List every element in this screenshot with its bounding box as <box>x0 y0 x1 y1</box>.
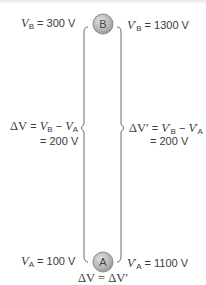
equals: = <box>27 120 40 132</box>
left-bracket <box>81 27 88 262</box>
svg-text:B: B <box>99 18 106 30</box>
vb: V <box>161 121 169 135</box>
right-bracket <box>117 27 124 262</box>
delta-v-prime: ΔV′ <box>129 121 149 135</box>
conclusion-equation: ΔV = ΔV′ <box>0 262 206 275</box>
left-vb-label: VB = 300 V <box>21 17 75 33</box>
delta-v: ΔV <box>10 119 27 133</box>
symbol: V <box>127 18 135 32</box>
right-delta-result: = 200 V <box>150 135 188 148</box>
subscript: B <box>136 24 141 33</box>
conclusion-text: ΔV = ΔV′ <box>78 271 128 285</box>
subscript: B <box>29 22 34 31</box>
equals: = <box>149 122 162 134</box>
va-sub: A <box>73 125 78 134</box>
minus: − <box>176 122 189 134</box>
right-vb-label: V′B = 1300 V <box>127 17 189 35</box>
minus: − <box>53 120 66 132</box>
va: V <box>65 119 73 133</box>
value: = 1300 V <box>145 19 189 31</box>
va: V <box>188 121 196 135</box>
value: = 300 V <box>37 17 75 29</box>
left-delta-equation: ΔV = VB − VA <box>10 120 78 136</box>
symbol: V <box>21 16 29 30</box>
left-delta-result: = 200 V <box>40 135 78 148</box>
va-sub: A <box>198 127 203 136</box>
charge-b: B <box>93 14 113 34</box>
